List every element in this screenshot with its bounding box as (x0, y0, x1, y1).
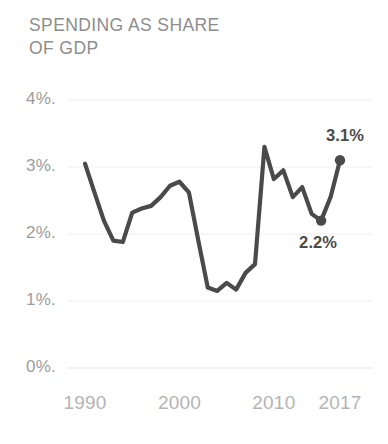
data-point-marker (335, 155, 345, 165)
x-axis-tick-label: 2017 (318, 392, 361, 414)
x-axis-tick-label: 1990 (63, 392, 106, 414)
y-axis-tick-label: 4%. (26, 89, 56, 109)
line-chart-plot (0, 0, 388, 444)
spending-share-line (85, 147, 340, 291)
data-point-marker (316, 215, 326, 225)
y-axis-tick-label: 1%. (26, 290, 56, 310)
data-point-value-label: 3.1% (326, 126, 364, 145)
chart-figure: SPENDING AS SHARE OF GDP 4%.3%.2%.1%.0%.… (0, 0, 388, 444)
x-axis-tick-label: 2010 (252, 392, 295, 414)
y-axis-tick-label: 0%. (26, 357, 56, 377)
data-point-value-label: 2.2% (299, 233, 337, 252)
y-axis-tick-label: 3%. (26, 156, 56, 176)
x-axis-tick-label: 2000 (158, 392, 201, 414)
y-axis-tick-label: 2%. (26, 223, 56, 243)
